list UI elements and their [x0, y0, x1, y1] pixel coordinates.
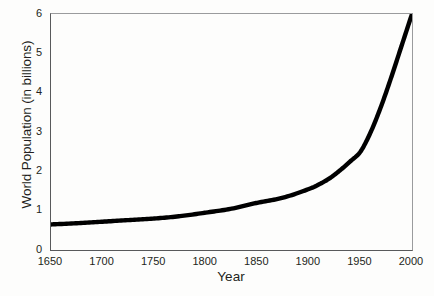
- y-tick-2: 2: [8, 165, 42, 176]
- x-tick-2000: 2000: [381, 256, 434, 267]
- y-tick-1: 1: [8, 204, 42, 215]
- y-tick-5: 5: [8, 47, 42, 58]
- y-tick-6: 6: [8, 8, 42, 19]
- y-tick-3: 3: [8, 126, 42, 137]
- population-curve: [51, 14, 412, 224]
- y-tick-0: 0: [8, 244, 42, 255]
- population-growth-chart: World Population (in billions) 0123456 1…: [0, 0, 434, 296]
- plot-area: [50, 13, 413, 251]
- y-tick-4: 4: [8, 86, 42, 97]
- population-curve-svg: [51, 14, 412, 250]
- x-axis-title: Year: [50, 269, 412, 284]
